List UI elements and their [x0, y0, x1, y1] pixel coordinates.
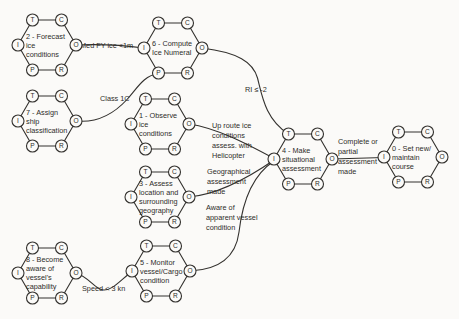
connection-label: assessment	[338, 157, 377, 166]
port-T-label: T	[143, 168, 147, 175]
node-title: aware of	[26, 264, 55, 273]
port-P-label: P	[156, 69, 161, 76]
fram-node-8: 8 - Becomeaware ofvessel'scapabilityTCIO…	[12, 242, 82, 304]
connection-4.O-to-0.I: Complete orpartialassessmentmade	[332, 137, 384, 176]
port-P-label: P	[30, 142, 35, 149]
node-title: 4 - Make	[282, 146, 310, 155]
port-O-label: O	[186, 120, 191, 127]
port-C-label: C	[172, 168, 177, 175]
connection-label: Complete or	[338, 137, 378, 146]
port-C-label: C	[173, 242, 178, 249]
port-O-label: O	[187, 267, 192, 274]
port-T-label: T	[156, 19, 160, 26]
port-I-label: I	[383, 153, 385, 160]
node-title: 7 - Assign	[26, 108, 58, 117]
port-O-label: O	[73, 117, 78, 124]
port-T-label: T	[30, 92, 34, 99]
port-T-label: T	[396, 128, 400, 135]
fram-node-3: 3 - Assesslocation andsurroundinggeograp…	[125, 166, 195, 228]
fram-node-6: 6 - ComputeIce NumeralTCIOPR	[138, 17, 208, 79]
connection-label: assess. with	[212, 141, 252, 150]
node-title: vessel's	[26, 273, 52, 282]
node-title: assessment	[282, 164, 321, 173]
node-title: conditions	[139, 129, 172, 138]
port-O-label: O	[186, 193, 191, 200]
port-I-label: I	[143, 44, 145, 51]
port-I-label: I	[17, 269, 19, 276]
port-O-label: O	[73, 269, 78, 276]
node-title: course	[392, 162, 414, 171]
port-R-label: R	[59, 294, 64, 301]
connection-label: Class 1C	[100, 94, 130, 103]
fram-node-7: 7 - AssignshipclassificationTCIOPR	[12, 90, 82, 152]
port-R-label: R	[59, 142, 64, 149]
connection-label: made	[207, 187, 225, 196]
connection-1.O-to-4.I: Up route iceconditionsassess. withHelico…	[189, 121, 274, 160]
port-T-label: T	[30, 16, 34, 23]
node-title: 6 - Compute	[152, 39, 192, 48]
port-I-label: I	[130, 193, 132, 200]
port-P-label: P	[143, 218, 148, 225]
connection-label: Helicopter	[212, 151, 245, 160]
connection-label: Aware of	[206, 203, 236, 212]
connection-label: Med FY ice <1m	[80, 41, 133, 50]
node-title: ice	[26, 41, 35, 50]
node-title: surrounding	[139, 197, 178, 206]
port-O-label: O	[329, 155, 334, 162]
port-O-label: O	[199, 44, 204, 51]
connection-label: made	[338, 167, 356, 176]
port-P-label: P	[286, 180, 291, 187]
fram-node-2: 2 - ForecasticeconditionsTCIOPR	[12, 14, 82, 76]
fram-node-0: 0 - Set new/maintaincourseTCIOPR	[378, 126, 448, 188]
fram-diagram-svg: Med FY ice <1mClass 1CRI ≤ -2Up route ic…	[0, 0, 459, 319]
node-title: 0 - Set new/	[392, 144, 432, 153]
port-I-label: I	[131, 267, 133, 274]
port-P-label: P	[30, 294, 35, 301]
port-R-label: R	[59, 66, 64, 73]
port-T-label: T	[143, 95, 147, 102]
port-C-label: C	[59, 16, 64, 23]
connection-label: conditions	[212, 131, 245, 140]
fram-diagram: Med FY ice <1mClass 1CRI ≤ -2Up route ic…	[0, 0, 459, 319]
port-P-label: P	[30, 66, 35, 73]
fram-node-4: 4 - MakesituationalassessmentTCIOPR	[268, 128, 338, 190]
connection-3.O-to-4.I: Geographicalassessmentmade	[189, 160, 274, 197]
connection-label: RI ≤ -2	[245, 85, 267, 94]
connection-label: Geographical	[207, 167, 251, 176]
port-R-label: R	[172, 218, 177, 225]
port-T-label: T	[286, 130, 290, 137]
port-O-label: O	[439, 153, 444, 160]
node-title: vessel/Cargo	[140, 267, 183, 276]
port-T-label: T	[144, 242, 148, 249]
port-P-label: P	[143, 145, 148, 152]
port-C-label: C	[59, 244, 64, 251]
port-R-label: R	[425, 178, 430, 185]
node-title: ice	[139, 120, 148, 129]
connection-label: assessment	[207, 177, 246, 186]
port-I-label: I	[273, 155, 275, 162]
connection-2.O-to-6.I: Med FY ice <1m	[76, 41, 144, 50]
node-title: classification	[26, 126, 67, 135]
node-title: capability	[26, 282, 57, 291]
port-C-label: C	[185, 19, 190, 26]
connection-label: Speed < 3 kn	[82, 284, 125, 293]
node-title: 2 - Forecast	[26, 32, 65, 41]
port-O-label: O	[73, 41, 78, 48]
node-title: 8 - Become	[26, 255, 63, 264]
node-title: conditions	[26, 50, 59, 59]
fram-node-5: 5 - Monitorvessel/CargoconditionTCIOPR	[126, 240, 196, 302]
connection-8.O-to-5.I: Speed < 3 kn	[76, 272, 132, 294]
port-P-label: P	[396, 178, 401, 185]
fram-node-1: 1 - ObserveiceconditionsTCIOPR	[125, 93, 195, 155]
port-R-label: R	[172, 145, 177, 152]
port-C-label: C	[59, 92, 64, 99]
node-title: 1 - Observe	[139, 111, 177, 120]
node-title: maintain	[392, 153, 420, 162]
port-I-label: I	[130, 120, 132, 127]
port-I-label: I	[17, 41, 19, 48]
node-title: Ice Numeral	[152, 48, 192, 57]
node-title: 5 - Monitor	[140, 258, 175, 267]
port-T-label: T	[30, 244, 34, 251]
node-title: geography	[139, 206, 174, 215]
connection-label: apparent vessel	[206, 213, 258, 222]
